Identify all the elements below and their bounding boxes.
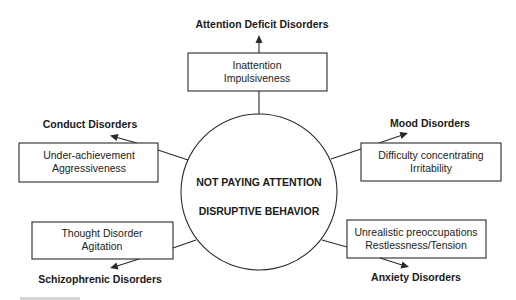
symptom-text: Impulsiveness — [224, 72, 291, 84]
arrow-line-schizophrenic — [117, 259, 139, 266]
disorder-label-schizophrenic: Schizophrenic Disorders — [38, 273, 162, 285]
connector-anxiety — [322, 240, 347, 247]
diagram-canvas: NOT PAYING ATTENTION DISRUPTIVE BEHAVIOR… — [0, 0, 516, 300]
central-node: NOT PAYING ATTENTION DISRUPTIVE BEHAVIOR — [181, 114, 337, 270]
arrow-head-icon — [401, 262, 410, 269]
arrow-head-icon — [110, 263, 119, 270]
arrow-line-conduct — [117, 138, 137, 144]
arrow-line-anxiety — [380, 258, 402, 265]
symptom-text: Inattention — [232, 59, 281, 71]
arrow-head-icon — [256, 35, 263, 43]
symptom-text: Irritability — [410, 162, 453, 174]
arrow-head-icon — [400, 132, 409, 139]
node-schizophrenic: Thought Disorder Agitation Schizophrenic… — [32, 222, 196, 285]
symptom-text: Agitation — [82, 240, 123, 252]
arrow-head-icon — [110, 134, 119, 141]
disorder-label-anxiety: Anxiety Disorders — [371, 271, 461, 283]
symptom-text: Restlessness/Tension — [365, 239, 467, 251]
arrow-line-mood — [379, 136, 401, 144]
connector-schizophrenic — [173, 240, 196, 248]
disorder-label-mood: Mood Disorders — [390, 117, 470, 129]
node-conduct: Conduct Disorders Under-achievement Aggr… — [19, 118, 188, 182]
disorder-label-conduct: Conduct Disorders — [43, 118, 138, 130]
symptom-text: Difficulty concentrating — [378, 149, 484, 161]
node-mood: Mood Disorders Difficulty concentrating … — [331, 117, 501, 181]
symptom-text: Thought Disorder — [61, 227, 143, 239]
symptom-text: Under-achievement — [43, 149, 135, 161]
connector-mood — [331, 149, 361, 159]
node-anxiety: Unrealistic preoccupations Restlessness/… — [322, 220, 486, 283]
symptom-text: Unrealistic preoccupations — [354, 226, 477, 238]
node-attention-deficit: Attention Deficit Disorders Inattention … — [188, 18, 329, 114]
disorder-label-attention-deficit: Attention Deficit Disorders — [195, 18, 328, 30]
symptom-text: Aggressiveness — [52, 162, 126, 174]
central-text-line2: DISRUPTIVE BEHAVIOR — [199, 205, 320, 217]
connector-conduct — [158, 150, 188, 160]
central-text-line1: NOT PAYING ATTENTION — [196, 176, 321, 188]
central-circle — [181, 114, 337, 270]
